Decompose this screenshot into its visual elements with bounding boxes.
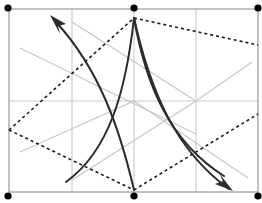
guide-diagonal-lower-right <box>134 101 248 178</box>
dot-bottom-center <box>130 192 137 199</box>
dot-bottom-left <box>4 192 11 199</box>
arrowhead-layer <box>50 15 233 191</box>
dot-top-center <box>130 4 137 11</box>
dot-top-left <box>4 4 11 11</box>
dot-top-right <box>254 4 261 11</box>
curve-arrow-lower-right <box>134 18 229 189</box>
grid-layer <box>9 9 258 192</box>
dot-bottom-right <box>254 192 261 199</box>
curve-long-sweep-left <box>66 18 134 182</box>
guide-diagonal-top-right-span <box>196 62 252 101</box>
diagram-canvas <box>0 0 262 203</box>
figure-svg <box>0 0 262 203</box>
